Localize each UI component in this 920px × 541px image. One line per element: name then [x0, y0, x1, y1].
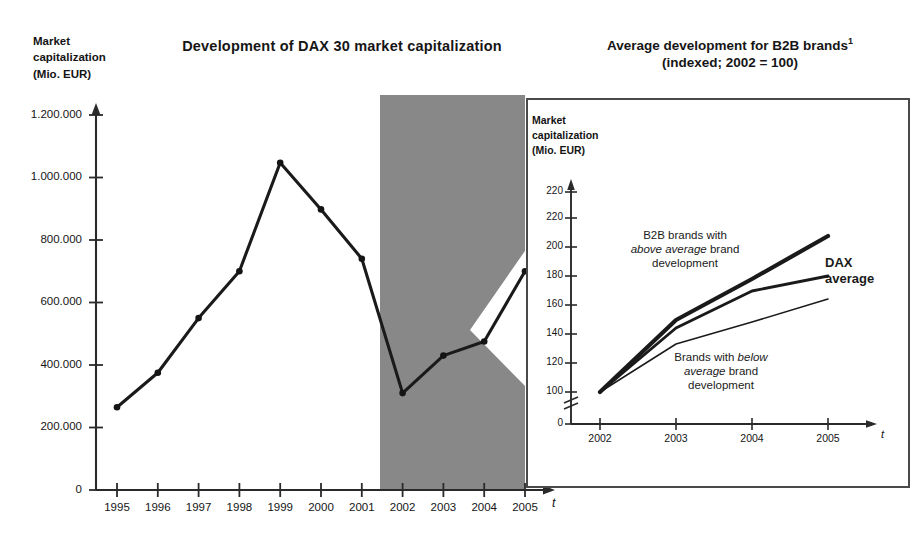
inset-xtick-label: 2004: [732, 432, 772, 444]
inset-ytick-label: 220: [533, 185, 563, 196]
label-above-line1: B2B brands with: [643, 229, 727, 241]
main-xtick-label: 1996: [136, 501, 180, 513]
label-above-italic: above average: [631, 243, 707, 255]
main-xtick-label: 1998: [217, 501, 261, 513]
inset-xtick-label: 2005: [808, 432, 848, 444]
label-below-line3: development: [688, 379, 754, 391]
inset-ytick-label: 120: [533, 356, 563, 367]
main-xtick-label: 1997: [177, 501, 221, 513]
inset-xtick-label: 2003: [656, 432, 696, 444]
inset-ytick-label: 140: [533, 327, 563, 338]
main-x-axis-letter: t: [552, 496, 555, 510]
main-ytick-label: 600.000: [4, 295, 82, 307]
inset-ytick-label: 180: [533, 269, 563, 280]
main-ytick-label: 1.200.000: [4, 108, 82, 120]
label-above-line3: development: [652, 257, 718, 269]
label-below-line1-rest: Brands with: [674, 351, 737, 363]
main-xtick-label: 2002: [381, 501, 425, 513]
label-below-italic1: below: [738, 351, 768, 363]
label-below-line2-rest: brand: [725, 365, 758, 377]
inset-x-axis-letter: t: [881, 428, 884, 440]
main-ytick-label: 400.000: [4, 358, 82, 370]
label-above-line2-rest: brand: [707, 243, 740, 255]
inset-ytick-label: 100: [533, 385, 563, 396]
inset-ytick-label: 220: [533, 211, 563, 222]
main-xtick-label: 1999: [258, 501, 302, 513]
inset-ytick-label: 160: [533, 298, 563, 309]
label-dax-line2: average: [825, 271, 874, 286]
main-xtick-label: 1995: [95, 501, 139, 513]
main-ytick-label: 0: [4, 483, 82, 495]
inset-ytick-label: 0: [533, 417, 563, 428]
main-y-axis-arrow: [92, 103, 101, 115]
series-label-below-average: Brands with below average brand developm…: [626, 350, 816, 392]
inset-ytick-label: 200: [533, 240, 563, 251]
main-ytick-label: 800.000: [4, 233, 82, 245]
main-xtick-label: 2003: [421, 501, 465, 513]
label-dax-line1: DAX: [825, 255, 852, 270]
inset-xtick-label: 2002: [580, 432, 620, 444]
series-label-dax-average: DAX average: [825, 255, 903, 286]
main-ytick-label: 200.000: [4, 420, 82, 432]
main-xtick-label: 2005: [503, 501, 547, 513]
label-below-italic2: average: [684, 365, 726, 377]
main-xtick-label: 2004: [462, 501, 506, 513]
chart-canvas: [0, 0, 920, 541]
main-ytick-label: 1.000.000: [4, 170, 82, 182]
main-xtick-label: 2000: [299, 501, 343, 513]
series-label-above-average: B2B brands with above average brand deve…: [592, 228, 778, 270]
main-xtick-label: 2001: [340, 501, 384, 513]
inset-y-axis-caption: Market capitalization (Mio. EUR): [532, 113, 599, 158]
chart-figure: Market capitalization (Mio. EUR) Develop…: [0, 0, 920, 541]
